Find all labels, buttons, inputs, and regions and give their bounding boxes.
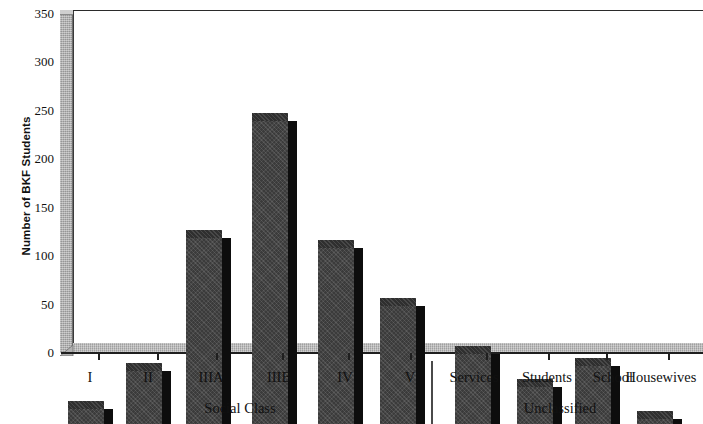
group-divider xyxy=(431,361,433,424)
x-tick-I xyxy=(98,353,100,360)
bar-IIIA-face xyxy=(186,237,222,424)
bar-IIIA-side xyxy=(222,238,231,424)
bar-IV-face xyxy=(318,247,354,424)
bar-V-face xyxy=(380,305,416,424)
bar-housewives-side xyxy=(673,419,682,424)
x-tick-II xyxy=(157,353,159,360)
x-label-IIIB: IIIB xyxy=(246,369,312,386)
bar-I-face xyxy=(68,408,104,424)
bar-IIIB-top xyxy=(252,113,288,121)
bar-housewives-top xyxy=(637,411,673,419)
bar-V-side xyxy=(416,306,425,424)
x-tick-school xyxy=(606,353,608,360)
x-label-IV: IV xyxy=(315,369,375,386)
x-tick-students xyxy=(548,353,550,360)
bar-IV-side xyxy=(354,248,363,424)
x-label-IIIA: IIIA xyxy=(178,369,244,386)
x-label-II: II xyxy=(118,369,178,386)
group-label-social-class: Social Class xyxy=(160,400,320,417)
x-tick-V xyxy=(410,353,412,360)
bar-IV-top xyxy=(318,240,354,248)
bars-layer xyxy=(0,0,703,424)
group-label-unclassified: Unclassified xyxy=(480,400,640,417)
x-tick-IV xyxy=(348,353,350,360)
x-tick-IIIB xyxy=(282,353,284,360)
bar-chart: Number of BKF Students 350 300 250 200 1… xyxy=(0,0,703,424)
x-tick-services xyxy=(486,353,488,360)
x-tick-IIIA xyxy=(216,353,218,360)
x-tick-housewives xyxy=(668,353,670,360)
x-label-I: I xyxy=(60,369,120,386)
x-label-housewives: Housewives xyxy=(617,369,703,386)
bar-IIIA-top xyxy=(186,230,222,238)
bar-I-top xyxy=(68,401,104,409)
x-label-services: Services xyxy=(436,369,512,386)
x-label-students: Students xyxy=(508,369,586,386)
bar-I-side xyxy=(104,409,113,424)
bar-V-top xyxy=(380,298,416,306)
